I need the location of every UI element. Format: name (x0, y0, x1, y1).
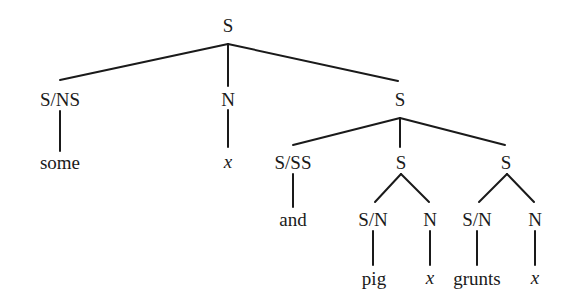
tree-edge (228, 44, 398, 81)
tree-node: S (223, 16, 234, 35)
tree-node: S/NS (40, 90, 80, 109)
syntax-tree-diagram: SS/NSNSsomexS/SSSSandS/NNS/NNpigxgruntsx (0, 0, 569, 307)
tree-node: pig (362, 269, 386, 288)
tree-node: N (221, 90, 235, 109)
tree-edge (60, 44, 228, 80)
tree-node: some (40, 153, 80, 172)
tree-node: S/SS (275, 153, 312, 172)
tree-node: S/N (462, 210, 492, 229)
tree-edge (375, 174, 401, 202)
tree-edge (507, 174, 534, 202)
tree-node: S (396, 153, 407, 172)
tree-node: x (531, 268, 539, 287)
tree-node: and (279, 210, 306, 229)
tree-node: N (423, 210, 437, 229)
tree-node: x (426, 268, 434, 287)
tree-node: grunts (453, 269, 501, 288)
tree-node: S (501, 153, 512, 172)
tree-node: S (395, 90, 406, 109)
tree-node: N (528, 210, 542, 229)
tree-edge (479, 174, 507, 202)
tree-node: x (224, 152, 232, 171)
tree-node: S/N (358, 210, 388, 229)
tree-edge (400, 118, 505, 145)
tree-edge (401, 174, 429, 202)
tree-edge (293, 118, 400, 145)
